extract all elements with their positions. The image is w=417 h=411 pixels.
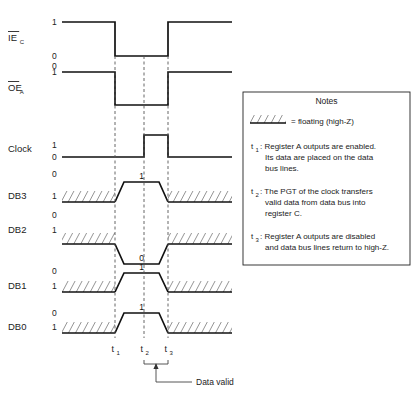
level-bottom-DB1: 0 <box>52 266 57 276</box>
bus-value-DB3: 1 <box>139 171 144 181</box>
signal-label-DB0: DB0 <box>8 321 26 332</box>
level-bottom-DB2: 0 <box>52 210 57 220</box>
floating-band-right-DB3 <box>168 191 232 202</box>
level-bottom-DB0: 0 <box>52 308 57 318</box>
level-bottom-IEC: 0 <box>52 51 57 61</box>
level-bottom-DB3: 0 <box>52 169 57 179</box>
notes-item-line-1-1: Its data are placed on the data <box>265 153 374 162</box>
notes-title: Notes <box>315 96 337 106</box>
level-top-IEC: 1 <box>52 17 57 27</box>
floating-band-right-DB2 <box>168 233 232 244</box>
timing-diagram-canvas: IEC10OEA10Clock10DB3101DB2100DB1101DB010… <box>0 0 417 411</box>
signal-label-DB1: DB1 <box>8 280 26 291</box>
floating-band-left-DB2 <box>62 233 115 244</box>
floating-band-right-DB1 <box>168 281 232 292</box>
signal-subscript-IEC: C <box>20 39 25 45</box>
signal-label-Clock: Clock <box>8 143 32 154</box>
signal-label-DB2: DB2 <box>8 224 26 235</box>
level-top-DB2: 1 <box>52 225 57 235</box>
signal-label-IEC: IE <box>8 32 17 43</box>
floating-band-left-DB3 <box>62 191 115 202</box>
bus-value-DB0: 1 <box>139 302 144 312</box>
notes-legend-text: = floating (high-Z) <box>291 117 354 126</box>
notes-item-line-3-0: : Register A outputs are disabled <box>260 232 375 241</box>
notes-item-line-1-0: : Register A outputs are enabled. <box>260 142 376 151</box>
data-valid-label: Data valid <box>196 377 234 387</box>
notes-item-line-3-1: and data bus lines return to high-Z. <box>265 243 389 252</box>
level-top-DB1: 1 <box>52 281 57 291</box>
bus-value-DB1: 1 <box>139 262 144 272</box>
level-top-DB3: 1 <box>52 191 57 201</box>
floating-band-right-DB0 <box>168 322 232 333</box>
floating-band-left-DB0 <box>62 322 115 333</box>
notes-item-line-1-2: bus lines. <box>265 164 299 173</box>
notes-item-line-2-2: register C. <box>265 209 302 218</box>
signal-label-DB3: DB3 <box>8 190 26 201</box>
level-top-DB0: 1 <box>52 322 57 332</box>
notes-item-line-2-1: valid data from data bus into <box>265 198 366 207</box>
level-top-Clock: 1 <box>52 140 57 150</box>
timing-diagram-page: IEC10OEA10Clock10DB3101DB2100DB1101DB010… <box>0 0 417 411</box>
level-bottom-OEA: 0 <box>52 61 57 71</box>
level-bottom-Clock: 0 <box>52 152 57 162</box>
floating-band-left-DB1 <box>62 281 115 292</box>
signal-subscript-OEA: A <box>20 89 24 95</box>
hatch-floating-icon <box>250 115 286 123</box>
notes-item-line-2-0: : The PGT of the clock transfers <box>260 187 373 196</box>
